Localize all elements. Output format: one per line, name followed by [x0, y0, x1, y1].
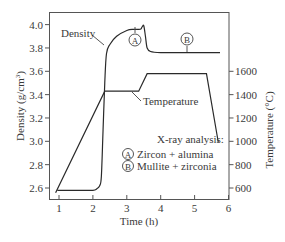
y-tick-label: 2.8	[29, 159, 43, 171]
y2-tick-label: 1600	[235, 65, 258, 77]
y-tick-label: 3.0	[29, 135, 43, 147]
density-pointer	[92, 35, 104, 45]
legend-a-marker: A	[125, 150, 132, 160]
x-axis-label: Time (h)	[120, 215, 159, 228]
y-tick-label: 3.4	[29, 89, 43, 101]
density-annotation: Density	[61, 27, 96, 39]
legend: X-ray analysis: A Zircon + alumina B Mul…	[123, 133, 224, 172]
y-axis-left: 2.62.83.03.23.43.63.84.0	[29, 19, 49, 194]
x-tick-label: 6	[226, 202, 232, 214]
x-tick-label: 5	[192, 202, 198, 214]
x-tick-label: 3	[124, 202, 130, 214]
chart: 2.62.83.03.23.43.63.84.0 600800100012001…	[0, 0, 285, 242]
y2-tick-label: 1400	[235, 89, 258, 101]
y-tick-label: 3.8	[29, 42, 43, 54]
y2-tick-label: 600	[235, 182, 252, 194]
legend-title: X-ray analysis:	[157, 133, 224, 145]
y2-tick-label: 1000	[235, 135, 258, 147]
legend-b-text: Mullite + zirconia	[137, 160, 217, 172]
y2-tick-label: 1200	[235, 112, 258, 124]
y-tick-label: 3.2	[29, 112, 43, 124]
temperature-pointer	[132, 92, 141, 101]
temperature-annotation: Temperature	[143, 95, 199, 107]
y-tick-label: 4.0	[29, 19, 43, 31]
x-axis: 123456	[56, 195, 232, 214]
legend-b-marker: B	[125, 162, 131, 172]
y-tick-label: 3.6	[29, 65, 43, 77]
legend-a-text: Zircon + alumina	[137, 148, 214, 160]
y-axis-right: 6008001000120014001600	[229, 65, 258, 194]
x-tick-label: 1	[56, 202, 62, 214]
marker-a-label: A	[132, 36, 139, 46]
marker-b-label: B	[184, 35, 190, 45]
x-tick-label: 2	[90, 202, 96, 214]
y-tick-label: 2.6	[29, 182, 43, 194]
y-axis-right-label: Temperature (°C)	[263, 91, 276, 169]
y-axis-left-label: Density (g/cm3)	[14, 71, 27, 141]
y2-tick-label: 800	[235, 159, 252, 171]
x-tick-label: 4	[158, 202, 164, 214]
